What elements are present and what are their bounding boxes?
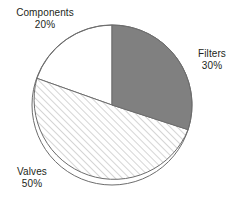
pie-label-components-value: 20% xyxy=(6,19,84,31)
pie-label-components-name: Components xyxy=(6,7,84,19)
pie-label-filters: Filters 30% xyxy=(190,48,234,71)
pie-chart-figure: Components 20% Filters 30% Valves 50% xyxy=(0,0,235,209)
pie-label-components: Components 20% xyxy=(6,7,84,30)
pie-label-filters-name: Filters xyxy=(190,48,234,60)
pie-label-valves-value: 50% xyxy=(8,178,56,190)
pie-label-filters-value: 30% xyxy=(190,60,234,72)
pie-label-valves-name: Valves xyxy=(8,166,56,178)
pie-label-valves: Valves 50% xyxy=(8,166,56,189)
